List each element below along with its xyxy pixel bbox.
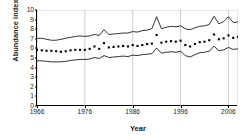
x-axis-tick-mark xyxy=(228,105,229,108)
upper-confidence-line xyxy=(37,16,238,40)
data-point-marker xyxy=(84,49,86,51)
y-axis-tick-label: 5 xyxy=(30,55,34,62)
data-point-marker xyxy=(113,46,115,48)
y-axis-tick-label: 7 xyxy=(30,36,34,43)
lower-confidence-line xyxy=(37,46,238,62)
y-axis-tick-mark xyxy=(35,67,38,68)
x-axis-tick-label: 2006 xyxy=(221,109,236,116)
data-point-marker xyxy=(50,50,52,52)
data-point-marker xyxy=(103,42,105,44)
y-axis-tick-mark xyxy=(35,58,38,59)
y-axis-tick-mark xyxy=(35,77,38,78)
data-point-marker xyxy=(69,49,71,51)
y-axis-tick-mark xyxy=(35,10,38,11)
y-axis-tick-label: 10 xyxy=(27,7,34,14)
chart-canvas xyxy=(37,10,238,106)
y-axis-tick-label: 9 xyxy=(30,16,34,23)
y-axis-tick-mark xyxy=(35,96,38,97)
data-point-marker xyxy=(160,42,162,44)
data-point-marker xyxy=(60,51,62,53)
x-axis-tick-mark xyxy=(37,105,38,108)
x-axis-tick-label: 1996 xyxy=(173,109,188,116)
data-point-marker xyxy=(194,43,196,45)
data-point-marker xyxy=(136,45,138,47)
data-point-marker xyxy=(41,49,43,51)
data-point-marker xyxy=(189,45,191,47)
data-point-marker xyxy=(65,50,67,52)
y-axis-tick-label: 3 xyxy=(30,74,34,81)
x-axis-tick-label: 1986 xyxy=(125,109,140,116)
data-point-marker xyxy=(218,38,220,40)
data-point-marker xyxy=(127,45,129,47)
y-axis-title: Abundance index xyxy=(11,0,20,77)
data-point-marker xyxy=(199,41,201,43)
y-axis-tick-label: 6 xyxy=(30,45,34,52)
data-point-marker xyxy=(213,33,215,35)
data-point-marker xyxy=(132,44,134,46)
data-point-marker xyxy=(55,50,57,52)
data-point-marker xyxy=(98,48,100,50)
data-point-marker xyxy=(89,48,91,50)
data-point-marker xyxy=(203,41,205,43)
data-point-marker xyxy=(156,34,158,36)
data-point-marker xyxy=(165,41,167,43)
data-point-marker xyxy=(208,39,210,41)
y-axis-tick-mark xyxy=(35,48,38,49)
data-point-marker xyxy=(117,45,119,47)
y-axis-tick-mark xyxy=(35,86,38,87)
data-point-marker xyxy=(93,45,95,47)
data-point-marker xyxy=(146,43,148,45)
y-axis-tick-mark xyxy=(35,38,38,39)
y-axis-tick-label: 8 xyxy=(30,26,34,33)
data-point-marker xyxy=(141,44,143,46)
data-point-marker xyxy=(151,43,153,45)
data-point-marker xyxy=(227,34,229,36)
data-point-marker xyxy=(122,45,124,47)
data-point-marker xyxy=(79,49,81,51)
x-axis-tick-mark xyxy=(181,105,182,108)
x-axis-tick-label: 1966 xyxy=(30,109,45,116)
x-axis-tick-label: 1976 xyxy=(78,109,93,116)
data-point-marker xyxy=(237,36,238,38)
data-point-marker xyxy=(108,46,110,48)
abundance-index-chart: Abundance index 012345678910196619761986… xyxy=(0,0,247,137)
data-point-marker xyxy=(46,50,48,52)
data-point-marker xyxy=(37,49,38,51)
data-point-marker xyxy=(232,37,234,39)
y-axis-tick-mark xyxy=(35,19,38,20)
y-axis-tick-label: 4 xyxy=(30,64,34,71)
data-point-marker xyxy=(74,49,76,51)
x-axis-tick-mark xyxy=(133,105,134,108)
y-axis-tick-label: 1 xyxy=(30,93,34,100)
data-point-marker xyxy=(223,37,225,39)
y-axis-tick-mark xyxy=(35,29,38,30)
data-point-marker xyxy=(180,40,182,42)
x-axis-title: Year xyxy=(33,124,243,133)
data-point-marker xyxy=(170,40,172,42)
plot-area: 01234567891019661976198619962006 xyxy=(36,10,237,106)
y-axis-tick-label: 2 xyxy=(30,84,34,91)
x-axis-tick-mark xyxy=(85,105,86,108)
data-point-marker xyxy=(175,41,177,43)
data-point-marker xyxy=(184,44,186,46)
